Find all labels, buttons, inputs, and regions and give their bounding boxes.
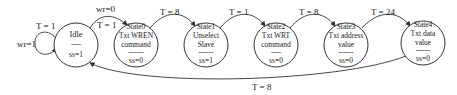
ss-value: ss=0	[416, 54, 430, 63]
state-name: State3	[337, 22, 356, 31]
state-name: State0	[127, 22, 146, 31]
state-name: State1	[197, 22, 216, 31]
state-desc-1: Txt data	[411, 29, 436, 38]
state-state4: State4 Txt data value ------ ss=0	[401, 20, 445, 65]
transition-state3-state4: T = 24	[362, 7, 410, 28]
ss-value: ss=0	[269, 56, 283, 65]
state-desc-1: Txt WREN	[119, 31, 154, 40]
state-state2: State2 Txt WRT command ---- ss=0	[254, 22, 298, 67]
transition-state2-state3: T = 8	[290, 7, 335, 28]
state-state0: State0 Txt WREN command ------ ss=0	[114, 22, 158, 67]
ss-value: ss=0	[129, 56, 143, 65]
wr0-label: wr=0	[96, 4, 116, 14]
transition-idle-state0: wr=0 T = 1	[90, 4, 127, 30]
label: T = 24	[371, 7, 395, 17]
state-name: State4	[414, 20, 433, 29]
transition-state0-state1: T = 8	[150, 7, 195, 28]
ss-value: ss=0	[339, 56, 353, 65]
state-idle: Idle ---- ss=1	[54, 23, 98, 67]
state-desc-1: Txt address	[329, 31, 364, 40]
self-loop-T-label: T = 1	[36, 21, 55, 31]
transition-state1-state2: T = 1	[220, 7, 265, 28]
state-desc-1: Unselect	[193, 31, 220, 40]
label: T = 8	[252, 82, 272, 92]
label: T = 1	[229, 7, 248, 17]
T1-label: T = 1	[97, 20, 116, 30]
label: T = 8	[299, 7, 319, 17]
state-state1: State1 Unselect Slave ------ ss=1	[184, 22, 228, 67]
self-loop-wr-label: wr=1	[17, 39, 36, 49]
state-name: Idle	[69, 29, 82, 39]
ss-value: ss=1	[69, 50, 83, 59]
ss-value: ss=1	[199, 56, 213, 65]
transition-idle-self: T = 1 wr=1	[17, 21, 57, 54]
state-diagram: T = 1 wr=1 wr=0 T = 1 T = 8 T = 1 T = 8 …	[0, 0, 457, 95]
separator: ----	[71, 40, 81, 49]
state-desc-1: Txt WRT	[262, 31, 291, 40]
state-name: State2	[267, 22, 286, 31]
state-state3: State3 Txt address value ------ ss=0	[324, 22, 368, 67]
label: T = 8	[160, 7, 180, 17]
